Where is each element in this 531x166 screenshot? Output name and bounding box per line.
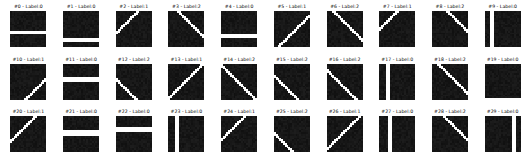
- sample-title: #14 - Label:2: [223, 57, 255, 63]
- sample-cell: #19 - Label:0: [476, 57, 529, 110]
- sample-title: #3 - Label:2: [172, 4, 201, 10]
- sample-title: #15 - Label:2: [276, 57, 308, 63]
- sample-image: [379, 64, 415, 100]
- sample-title: #10 - Label:1: [12, 57, 44, 63]
- sample-image: [63, 64, 99, 100]
- sample-image: [10, 11, 46, 47]
- sample-title: #17 - Label:0: [381, 57, 413, 63]
- sample-image: [274, 11, 310, 47]
- sample-title: #20 - Label:1: [12, 109, 44, 115]
- sample-cell: #1 - Label:0: [55, 4, 108, 57]
- sample-title: #1 - Label:0: [67, 4, 96, 10]
- sample-image: [63, 11, 99, 47]
- sample-image: [168, 116, 204, 152]
- sample-title: #9 - Label:0: [488, 4, 517, 10]
- sample-cell: #3 - Label:2: [160, 4, 213, 57]
- sample-image: [274, 64, 310, 100]
- sample-title: #19 - Label:0: [487, 57, 519, 63]
- sample-image: [221, 116, 257, 152]
- sample-title: #22 - Label:0: [118, 109, 150, 115]
- sample-title: #2 - Label:1: [119, 4, 148, 10]
- sample-image: [327, 116, 363, 152]
- sample-cell: #23 - Label:0: [160, 109, 213, 162]
- sample-cell: #9 - Label:0: [476, 4, 529, 57]
- sample-cell: #15 - Label:2: [266, 57, 319, 110]
- sample-cell: #18 - Label:2: [424, 57, 477, 110]
- sample-cell: #2 - Label:1: [107, 4, 160, 57]
- sample-cell: #24 - Label:1: [213, 109, 266, 162]
- sample-image: [485, 64, 521, 100]
- sample-title: #26 - Label:1: [329, 109, 361, 115]
- sample-image: [379, 11, 415, 47]
- sample-cell: #12 - Label:2: [107, 57, 160, 110]
- sample-image: [10, 64, 46, 100]
- sample-cell: #22 - Label:0: [107, 109, 160, 162]
- sample-cell: #13 - Label:1: [160, 57, 213, 110]
- sample-title: #25 - Label:2: [276, 109, 308, 115]
- sample-cell: #5 - Label:1: [266, 4, 319, 57]
- sample-title: #6 - Label:2: [330, 4, 359, 10]
- sample-cell: #14 - Label:2: [213, 57, 266, 110]
- sample-image: [432, 64, 468, 100]
- sample-title: #18 - Label:2: [434, 57, 466, 63]
- sample-title: #28 - Label:2: [434, 109, 466, 115]
- sample-title: #21 - Label:0: [65, 109, 97, 115]
- sample-title: #23 - Label:0: [171, 109, 203, 115]
- sample-cell: #8 - Label:2: [424, 4, 477, 57]
- sample-cell: #28 - Label:2: [424, 109, 477, 162]
- sample-title: #12 - Label:2: [118, 57, 150, 63]
- sample-cell: #27 - Label:0: [371, 109, 424, 162]
- sample-cell: #6 - Label:2: [318, 4, 371, 57]
- sample-cell: #25 - Label:2: [266, 109, 319, 162]
- sample-image: [379, 116, 415, 152]
- sample-image: [432, 116, 468, 152]
- sample-image: [10, 116, 46, 152]
- sample-image: [485, 116, 521, 152]
- sample-title: #27 - Label:0: [381, 109, 413, 115]
- sample-cell: #16 - Label:2: [318, 57, 371, 110]
- sample-title: #29 - Label:0: [487, 109, 519, 115]
- sample-image: [485, 11, 521, 47]
- sample-image: [116, 64, 152, 100]
- sample-image: [116, 116, 152, 152]
- sample-image: [168, 11, 204, 47]
- sample-title: #4 - Label:0: [225, 4, 254, 10]
- sample-cell: #4 - Label:0: [213, 4, 266, 57]
- sample-image: [221, 11, 257, 47]
- sample-image: [221, 64, 257, 100]
- figure-canvas: #0 - Label:0#1 - Label:0#2 - Label:1#3 -…: [0, 0, 531, 166]
- sample-cell: #29 - Label:0: [476, 109, 529, 162]
- sample-cell: #10 - Label:1: [2, 57, 55, 110]
- sample-image: [327, 11, 363, 47]
- sample-cell: #17 - Label:0: [371, 57, 424, 110]
- sample-cell: #7 - Label:1: [371, 4, 424, 57]
- sample-title: #16 - Label:2: [329, 57, 361, 63]
- sample-cell: #21 - Label:0: [55, 109, 108, 162]
- sample-cell: #26 - Label:1: [318, 109, 371, 162]
- sample-grid: #0 - Label:0#1 - Label:0#2 - Label:1#3 -…: [0, 0, 531, 166]
- sample-image: [63, 116, 99, 152]
- sample-image: [432, 11, 468, 47]
- sample-cell: #11 - Label:0: [55, 57, 108, 110]
- sample-image: [168, 64, 204, 100]
- sample-image: [327, 64, 363, 100]
- sample-title: #7 - Label:1: [383, 4, 412, 10]
- sample-title: #11 - Label:0: [65, 57, 97, 63]
- sample-cell: #20 - Label:1: [2, 109, 55, 162]
- sample-title: #5 - Label:1: [277, 4, 306, 10]
- sample-title: #8 - Label:2: [436, 4, 465, 10]
- sample-title: #24 - Label:1: [223, 109, 255, 115]
- sample-cell: #0 - Label:0: [2, 4, 55, 57]
- sample-image: [274, 116, 310, 152]
- sample-image: [116, 11, 152, 47]
- sample-title: #13 - Label:1: [171, 57, 203, 63]
- sample-title: #0 - Label:0: [14, 4, 43, 10]
